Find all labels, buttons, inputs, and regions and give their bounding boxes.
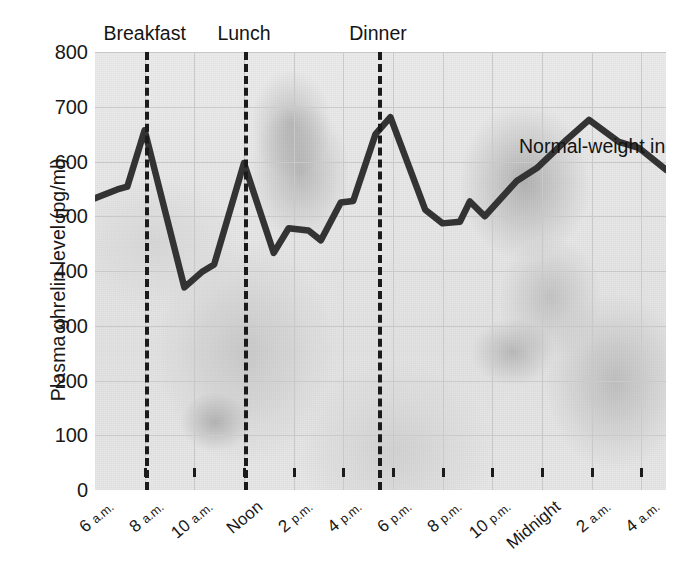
meal-marker-line [145,52,149,490]
x-axis-tick-label: 10 a.m. [168,497,218,543]
y-axis-tick-labels: 0100200300400500600700800 [0,0,88,574]
y-axis-tick-label: 200 [4,369,88,392]
plot-area: Normal-weight individuals [95,52,666,490]
meal-marker-line [378,52,382,490]
x-axis-tick-mark [293,468,296,477]
series-annotation-label: Normal-weight individuals [519,135,666,158]
y-axis-tick-label: 500 [4,205,88,228]
y-axis-tick-label: 400 [4,260,88,283]
x-axis-tick-mark [342,468,345,477]
ghrelin-chart-figure: Plasma ghrelin level (pg/ml) 01002003004… [0,0,688,574]
x-axis-tick-label: 6 p.m. [373,497,415,537]
x-axis-tick-mark [243,468,246,477]
x-axis-tick-label: 2 a.m. [572,497,614,537]
x-axis-tick-label: 2 p.m. [274,497,316,537]
x-axis-tick-label: Noon [223,497,267,538]
x-axis-tick-label: 8 a.m. [125,497,167,537]
meal-marker-label: Lunch [217,22,270,45]
x-axis-tick-mark [640,468,643,477]
x-axis-tick-label: 4 a.m. [622,497,664,537]
y-axis-tick-label: 0 [4,479,88,502]
x-axis-tick-mark [392,468,395,477]
y-axis-tick-label: 600 [4,150,88,173]
meal-marker-label: Breakfast [103,22,185,45]
y-axis-tick-label: 800 [4,41,88,64]
x-axis-tick-mark [541,468,544,477]
y-axis-tick-label: 300 [4,314,88,337]
x-axis-tick-mark [144,468,147,477]
x-axis-tick-label: 4 p.m. [324,497,366,537]
meal-marker-line [244,52,248,490]
x-axis-tick-mark [442,468,445,477]
y-axis-tick-label: 100 [4,424,88,447]
y-axis-tick-label: 700 [4,95,88,118]
meal-marker-label: Dinner [349,22,406,45]
x-axis-tick-label: 8 p.m. [423,497,465,537]
x-axis-tick-label: Midnight [503,497,565,554]
x-axis-tick-mark [193,468,196,477]
x-axis-tick-mark [491,468,494,477]
x-axis-tick-mark [591,468,594,477]
